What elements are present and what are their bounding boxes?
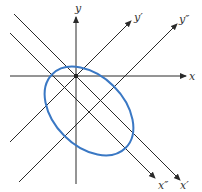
y-double-prime-axis [19, 24, 177, 182]
x-double-prime-axis [10, 33, 155, 178]
x-axis-label: x [189, 70, 196, 83]
y-prime-label: y′ [133, 11, 143, 24]
rotated-axes-diagram: x y x′ y′ x″ y″ [0, 0, 202, 192]
y-axis-label: y [74, 2, 82, 15]
y-double-prime-label: y″ [178, 13, 190, 26]
x-prime-label: x′ [180, 179, 189, 192]
diagram-svg: x y x′ y′ x″ y″ [0, 0, 202, 192]
y-prime-axis [10, 21, 131, 142]
ellipse [27, 49, 150, 172]
origin-dot [74, 74, 78, 78]
x-double-prime-label: x″ [158, 179, 169, 192]
